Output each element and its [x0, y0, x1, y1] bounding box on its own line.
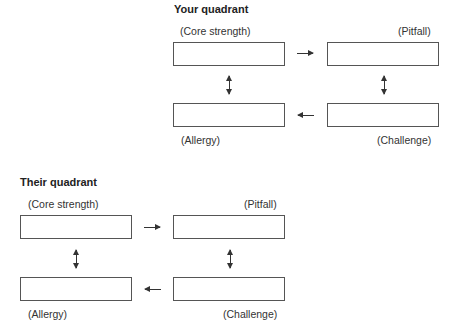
- arrow-left-icon: [145, 289, 161, 290]
- their-core-strength-box[interactable]: [20, 215, 132, 239]
- arrow-right-icon: [144, 227, 160, 228]
- arrow-updown-icon: [230, 250, 231, 268]
- their-challenge-box[interactable]: [173, 277, 285, 301]
- their-pitfall-label: (Pitfall): [244, 198, 277, 210]
- their-challenge-label: (Challenge): [223, 308, 277, 320]
- arrow-updown-icon: [76, 250, 77, 268]
- their-allergy-label: (Allergy): [28, 308, 67, 320]
- their-core-strength-label: (Core strength): [28, 198, 99, 210]
- their-allergy-box[interactable]: [20, 277, 132, 301]
- their-quadrant-title: Their quadrant: [20, 176, 97, 188]
- their-pitfall-box[interactable]: [173, 215, 285, 239]
